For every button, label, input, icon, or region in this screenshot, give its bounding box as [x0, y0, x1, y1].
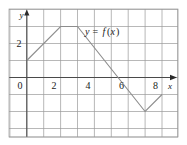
function-label-lhs: y: [84, 26, 90, 37]
x-tick-label-2: 2: [52, 80, 57, 91]
x-tick-label-6: 6: [119, 80, 124, 91]
x-tick-label-8: 8: [153, 80, 158, 91]
y-tick-label-2: 2: [17, 38, 22, 49]
function-label-equals: =: [93, 26, 99, 37]
x-axis-label: x: [167, 81, 172, 91]
graph-figure: y x 2 0 2 4 6 8 y = f ( x ): [0, 0, 187, 145]
x-tick-label-4: 4: [86, 80, 91, 91]
function-label-close-paren: ): [116, 26, 119, 38]
function-label-arg: x: [110, 26, 116, 37]
y-axis-label: y: [19, 10, 24, 20]
function-label: y = f ( x ): [84, 26, 119, 38]
x-tick-label-0: 0: [18, 80, 23, 91]
plot-canvas: y x 2 0 2 4 6 8 y = f ( x ): [0, 0, 187, 145]
